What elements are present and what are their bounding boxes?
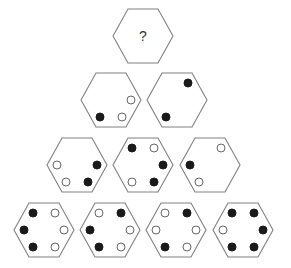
open-dot (219, 226, 227, 234)
filled-dot (29, 209, 37, 217)
open-dot (217, 144, 225, 152)
open-dot (117, 243, 125, 251)
filled-dot (117, 209, 125, 217)
hexagon-cell (113, 138, 173, 192)
hexagon-cell (213, 203, 273, 257)
filled-dot (259, 226, 267, 234)
filled-dot (183, 209, 191, 217)
hexagon-pyramid-puzzle: ? (0, 0, 291, 268)
open-dot (128, 178, 136, 186)
open-dot (51, 243, 59, 251)
filled-dot (29, 243, 37, 251)
filled-dot (96, 113, 104, 121)
open-dot (51, 209, 59, 217)
filled-dot (128, 144, 136, 152)
open-dot (95, 209, 103, 217)
open-dot (150, 144, 158, 152)
filled-dot (95, 243, 103, 251)
open-dot (195, 178, 203, 186)
open-dot (183, 243, 191, 251)
filled-dot (161, 243, 169, 251)
hexagon-outline (147, 73, 207, 127)
filled-dot (184, 79, 192, 87)
filled-dot (20, 226, 28, 234)
filled-dot (150, 178, 158, 186)
open-dot (126, 226, 134, 234)
hexagon-cell (80, 203, 140, 257)
filled-dot (93, 161, 101, 169)
open-dot (127, 96, 135, 104)
filled-dot (186, 161, 194, 169)
pyramid-row-4 (14, 203, 273, 257)
open-dot (53, 161, 61, 169)
filled-dot (162, 113, 170, 121)
hexagon-cell (180, 138, 240, 192)
open-dot (118, 113, 126, 121)
filled-dot (250, 243, 258, 251)
open-dot (152, 226, 160, 234)
filled-dot (84, 178, 92, 186)
filled-dot (250, 209, 258, 217)
hexagon-cell (47, 138, 107, 192)
pyramid-row-1: ? (113, 9, 173, 63)
filled-dot (228, 243, 236, 251)
hexagon-cell (14, 203, 74, 257)
filled-dot (159, 161, 167, 169)
hexagon-cell (147, 73, 207, 127)
open-dot (161, 209, 169, 217)
pyramid-row-2 (81, 73, 207, 127)
open-dot (62, 178, 70, 186)
open-dot (60, 226, 68, 234)
question-hexagon: ? (113, 9, 173, 63)
pyramid-row-3 (47, 138, 240, 192)
filled-dot (86, 226, 94, 234)
hexagon-cell (81, 73, 141, 127)
question-mark: ? (139, 28, 147, 44)
filled-dot (228, 209, 236, 217)
hexagon-cell (146, 203, 206, 257)
open-dot (192, 226, 200, 234)
